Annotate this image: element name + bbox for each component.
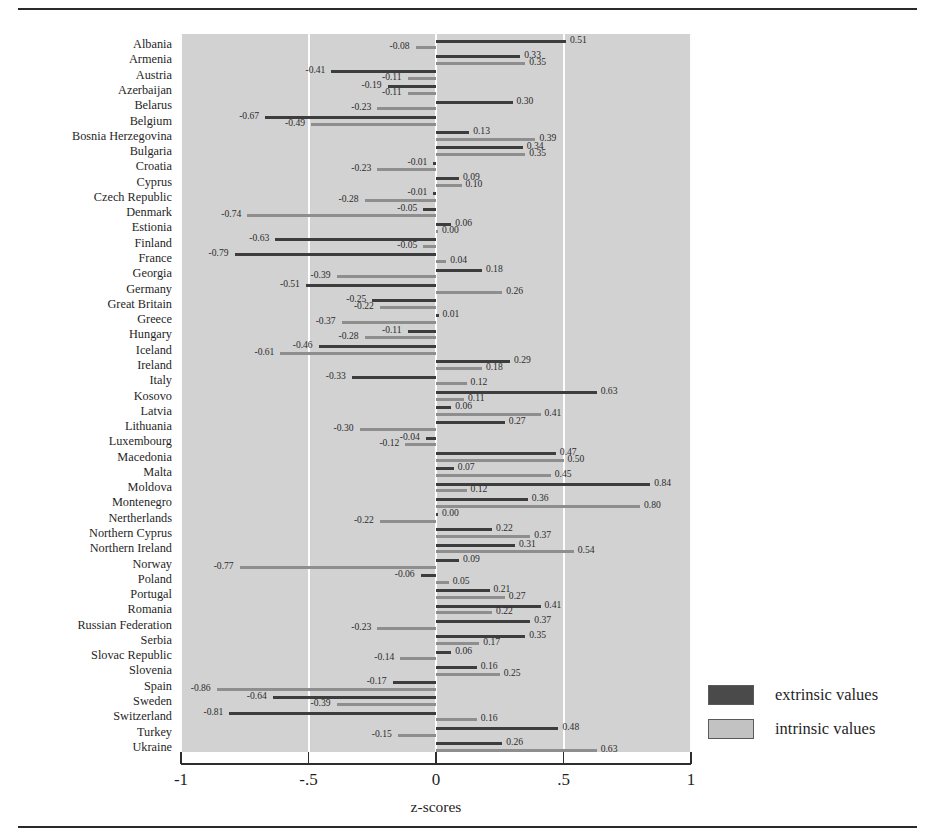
bar-value-extrinsic: -0.63 xyxy=(249,233,269,242)
category-label: Cyprus xyxy=(0,176,172,188)
bar-extrinsic xyxy=(436,421,505,424)
bar-value-intrinsic: -0.77 xyxy=(214,561,234,570)
bar-extrinsic xyxy=(436,544,515,547)
category-label: Denmark xyxy=(0,206,172,218)
bar-value-extrinsic: -0.06 xyxy=(395,569,415,578)
category-label: Kosovo xyxy=(0,390,172,402)
bar-value-intrinsic: 0.26 xyxy=(506,286,523,295)
bar-extrinsic xyxy=(436,742,502,745)
bar-value-extrinsic: 0.09 xyxy=(463,554,480,563)
bar-extrinsic xyxy=(372,299,436,302)
category-label: Montenegro xyxy=(0,496,172,508)
legend-label-extrinsic: extrinsic values xyxy=(775,685,878,705)
bar-extrinsic xyxy=(436,589,490,592)
category-label: Belarus xyxy=(0,99,172,111)
bar-value-intrinsic: -0.30 xyxy=(334,423,354,432)
bar-value-intrinsic: -0.49 xyxy=(285,118,305,127)
bar-intrinsic xyxy=(436,367,482,370)
bar-extrinsic xyxy=(408,330,436,333)
category-label: Serbia xyxy=(0,634,172,646)
bar-value-extrinsic: 0.22 xyxy=(496,523,513,532)
x-axis-tick-label: -.5 xyxy=(299,770,317,790)
category-label: Finland xyxy=(0,237,172,249)
category-label: Hungary xyxy=(0,328,172,340)
bar-intrinsic xyxy=(436,611,492,614)
bar-value-extrinsic: 0.51 xyxy=(570,35,587,44)
category-label: Sweden xyxy=(0,695,172,707)
bar-extrinsic xyxy=(436,55,520,58)
bar-extrinsic xyxy=(436,269,482,272)
bar-intrinsic xyxy=(360,428,437,431)
bar-value-intrinsic: 0.04 xyxy=(450,255,467,264)
bar-value-extrinsic: 0.37 xyxy=(534,615,551,624)
category-label: Bosnia Herzegovina xyxy=(0,130,172,142)
legend: extrinsic values intrinsic values xyxy=(708,678,923,746)
bar-value-extrinsic: 0.36 xyxy=(532,493,549,502)
bar-value-intrinsic: 0.17 xyxy=(483,637,500,646)
category-label: Macedonia xyxy=(0,451,172,463)
bar-extrinsic xyxy=(436,391,597,394)
bar-extrinsic xyxy=(319,345,436,348)
bar-value-intrinsic: -0.23 xyxy=(351,102,371,111)
bar-intrinsic xyxy=(436,550,574,553)
x-axis-tick-label: .5 xyxy=(557,770,570,790)
bar-value-intrinsic: 0.50 xyxy=(568,454,585,463)
bar-value-intrinsic: 0.35 xyxy=(529,57,546,66)
bar-value-extrinsic: -0.05 xyxy=(397,203,417,212)
bar-value-intrinsic: 0.54 xyxy=(578,545,595,554)
category-axis-labels: AlbaniaArmeniaAustriaAzerbaijanBelarusBe… xyxy=(0,34,172,752)
bar-value-extrinsic: 0.21 xyxy=(494,584,511,593)
bar-value-intrinsic: 0.35 xyxy=(529,148,546,157)
category-label: Slovenia xyxy=(0,664,172,676)
bar-value-intrinsic: 0.25 xyxy=(504,668,521,677)
category-label: Moldova xyxy=(0,481,172,493)
bar-intrinsic xyxy=(436,505,640,508)
bar-extrinsic xyxy=(436,559,459,562)
x-axis-tick xyxy=(435,752,437,764)
bar-intrinsic xyxy=(311,123,436,126)
bar-intrinsic xyxy=(247,214,436,217)
bar-intrinsic xyxy=(400,657,436,660)
bar-extrinsic xyxy=(436,727,558,730)
bar-intrinsic xyxy=(380,306,436,309)
bar-value-intrinsic: -0.05 xyxy=(397,240,417,249)
category-label: Croatia xyxy=(0,160,172,172)
category-label: Ukraine xyxy=(0,741,172,753)
bar-value-extrinsic: -0.01 xyxy=(407,187,427,196)
bar-value-extrinsic: 0.07 xyxy=(458,462,475,471)
bar-value-extrinsic: 0.30 xyxy=(517,96,534,105)
bar-extrinsic xyxy=(426,437,436,440)
bar-value-intrinsic: -0.28 xyxy=(339,194,359,203)
bar-value-extrinsic: 0.35 xyxy=(529,630,546,639)
bar-intrinsic xyxy=(337,275,436,278)
legend-swatch-extrinsic-icon xyxy=(708,685,754,705)
bar-intrinsic xyxy=(337,703,436,706)
x-axis-tick-label: -1 xyxy=(174,770,188,790)
category-label: Malta xyxy=(0,466,172,478)
category-label: Great Britain xyxy=(0,298,172,310)
x-axis xyxy=(181,752,691,766)
bar-value-extrinsic: -0.81 xyxy=(203,707,223,716)
bar-intrinsic xyxy=(377,168,436,171)
bar-value-intrinsic: -0.74 xyxy=(221,209,241,218)
category-label: Latvia xyxy=(0,405,172,417)
bar-extrinsic xyxy=(436,314,439,317)
bar-extrinsic xyxy=(436,498,528,501)
category-label: Poland xyxy=(0,573,172,585)
bar-intrinsic xyxy=(436,230,438,233)
bar-value-extrinsic: -0.79 xyxy=(209,248,229,257)
bar-intrinsic xyxy=(436,184,462,187)
bar-intrinsic xyxy=(436,260,446,263)
category-label: Switzerland xyxy=(0,710,172,722)
bar-value-extrinsic: 0.16 xyxy=(481,661,498,670)
bar-extrinsic xyxy=(229,712,436,715)
bar-value-intrinsic: -0.39 xyxy=(311,698,331,707)
category-label: Czech Republic xyxy=(0,191,172,203)
bar-value-extrinsic: 0.31 xyxy=(519,539,536,548)
figure-page: AlbaniaArmeniaAustriaAzerbaijanBelarusBe… xyxy=(0,0,935,836)
bar-value-extrinsic: -0.64 xyxy=(247,691,267,700)
bar-value-extrinsic: 0.84 xyxy=(654,478,671,487)
bar-extrinsic xyxy=(436,483,650,486)
bar-intrinsic xyxy=(436,474,551,477)
bar-intrinsic xyxy=(377,627,436,630)
